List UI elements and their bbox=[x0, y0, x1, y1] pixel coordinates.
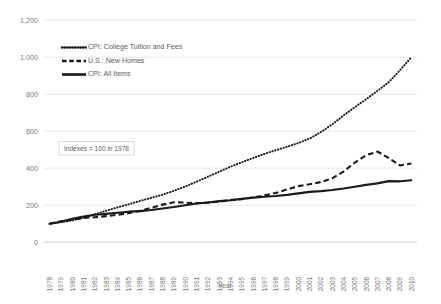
x-axis-tick-label: 1992 bbox=[204, 277, 211, 292]
legend-label: CPI: College Tuition and Fees bbox=[88, 43, 183, 51]
x-axis-tick-label: 2009 bbox=[396, 277, 403, 292]
x-axis-tick-label: 1981 bbox=[80, 277, 87, 292]
x-axis-tick-label: 2000 bbox=[295, 277, 302, 292]
series-layer bbox=[50, 57, 412, 224]
series-line bbox=[50, 57, 412, 224]
note-label: Indexes = 100 in 1978 bbox=[64, 145, 129, 152]
gridlines bbox=[44, 20, 417, 242]
legend-label: CPI: All Items bbox=[88, 70, 131, 78]
x-axis-tick-label: 1991 bbox=[193, 277, 200, 292]
x-axis-tick-label: 1979 bbox=[57, 277, 64, 292]
x-axis-tick-label: 1983 bbox=[103, 277, 110, 292]
y-axis-tick-label: 0 bbox=[34, 238, 38, 247]
x-axis-tick-label: 1997 bbox=[261, 277, 268, 292]
x-axis-tick-label: 2010 bbox=[408, 277, 415, 292]
y-axis-tick-label: 600 bbox=[26, 127, 38, 136]
chart-container: 02004006008001,0001,200 1978197919801981… bbox=[0, 0, 441, 304]
x-axis-tick-label: 1998 bbox=[272, 277, 279, 292]
x-axis-title: Year bbox=[218, 282, 233, 289]
annotation-note: Indexes = 100 in 1978 bbox=[59, 142, 134, 156]
x-axis-tick-label: 1978 bbox=[46, 277, 53, 292]
x-axis-tick-label: 2008 bbox=[385, 277, 392, 292]
x-axis-tick-label: 2003 bbox=[329, 277, 336, 292]
y-axis-tick-label: 1,000 bbox=[20, 53, 38, 62]
x-axis-tick-label: 1999 bbox=[283, 277, 290, 292]
x-axis-tick-label: 2007 bbox=[374, 277, 381, 292]
x-axis-tick-label: 1986 bbox=[136, 277, 143, 292]
x-axis-tick-label: 1984 bbox=[114, 277, 121, 292]
x-axis-tick-label: 2005 bbox=[351, 277, 358, 292]
x-axis-tick-label: 1989 bbox=[170, 277, 177, 292]
x-axis-tick-label: 1995 bbox=[238, 277, 245, 292]
x-axis-tick-label: 1985 bbox=[125, 277, 132, 292]
y-axis-tick-label: 800 bbox=[26, 90, 38, 99]
y-axis-tick-label: 200 bbox=[26, 201, 38, 210]
x-axis-tick-label: 1990 bbox=[182, 277, 189, 292]
line-chart: 02004006008001,0001,200 1978197919801981… bbox=[0, 0, 441, 304]
x-axis-tick-label: 2002 bbox=[317, 277, 324, 292]
x-axis-tick-label: 2001 bbox=[306, 277, 313, 292]
x-axis-tick-label: 1980 bbox=[69, 277, 76, 292]
series-line bbox=[50, 152, 412, 224]
legend-label: U.S.: New Homes bbox=[88, 57, 145, 65]
x-axis-tick-label: 2004 bbox=[340, 277, 347, 292]
y-axis-tick-label: 1,200 bbox=[20, 16, 38, 25]
x-axis-tick-label: 1982 bbox=[91, 277, 98, 292]
legend: CPI: College Tuition and FeesU.S.: New H… bbox=[62, 43, 183, 78]
x-axis-tick-label: 2006 bbox=[363, 277, 370, 292]
x-axis-tick-label: 1988 bbox=[159, 277, 166, 292]
y-axis-tick-label: 400 bbox=[26, 164, 38, 173]
x-axis-tick-label: 1996 bbox=[250, 277, 257, 292]
x-axis-tick-label: 1987 bbox=[148, 277, 155, 292]
y-axis-tick-labels: 02004006008001,0001,200 bbox=[20, 16, 38, 247]
